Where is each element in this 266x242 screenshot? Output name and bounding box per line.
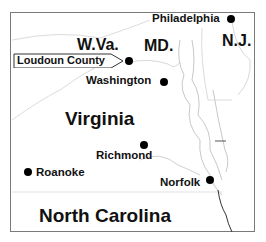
state-label-nj: N.J.: [222, 33, 251, 49]
loudoun-county-dot: [125, 57, 133, 65]
richmond-dot: [140, 141, 148, 149]
norfolk-dot: [206, 176, 214, 184]
city-label-norfolk: Norfolk: [160, 177, 200, 189]
city-label-washington: Washington: [86, 75, 151, 87]
city-label-richmond: Richmond: [96, 150, 152, 162]
state-label-virginia: Virginia: [65, 109, 134, 128]
state-label-wva: W.Va.: [77, 37, 119, 53]
washington-dot: [160, 78, 168, 86]
philadelphia-dot: [227, 15, 235, 23]
roanoke-dot: [24, 168, 32, 176]
city-label-philadelphia: Philadelphia: [152, 13, 220, 25]
city-label-roanoke: Roanoke: [36, 167, 85, 179]
state-label-md: MD.: [144, 38, 173, 54]
state-label-north-carolina: North Carolina: [39, 206, 171, 225]
callout-label-loudoun-county: Loudoun County: [17, 55, 105, 66]
